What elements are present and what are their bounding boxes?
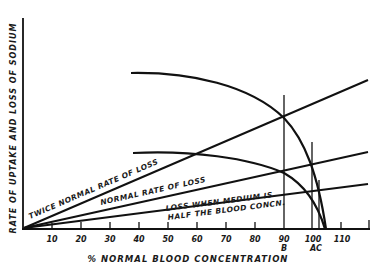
svg-text:70: 70 [220,235,232,244]
svg-text:40: 40 [132,235,145,244]
svg-text:30: 30 [104,235,116,244]
x-tick-labels: 10 20 30 40 50 60 70 80 90 100 110 [46,235,350,244]
svg-text:90: 90 [278,235,290,244]
marker-label-ac: AC [309,244,322,253]
y-axis-title: RATE OF UPTAKE AND LOSS OF SODIUM [9,23,18,234]
svg-text:20: 20 [75,235,87,244]
chart: 10 20 30 40 50 60 70 80 90 100 110 B AC … [0,0,382,265]
svg-text:50: 50 [162,235,174,244]
marker-label-b: B [281,244,287,253]
svg-text:100: 100 [305,235,322,244]
svg-text:10: 10 [46,235,58,244]
svg-text:80: 80 [249,235,261,244]
svg-text:60: 60 [191,235,203,244]
x-axis-title: % NORMAL BLOOD CONCENTRATION [88,254,289,264]
svg-text:110: 110 [334,235,351,244]
